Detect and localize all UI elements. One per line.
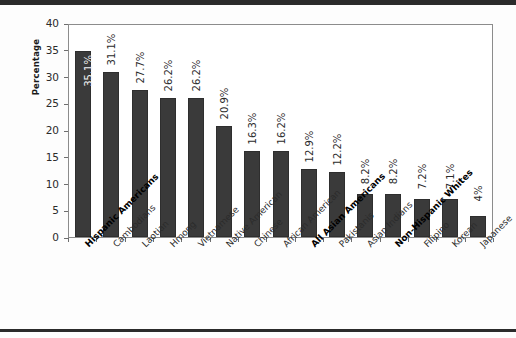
y-axis-tick-label: 20 xyxy=(46,124,59,136)
bar-value-label: 4% xyxy=(472,185,483,201)
x-axis-labels: Hispanic AmericansCambodiansLaotianHmong… xyxy=(69,242,492,332)
bar[interactable]: 26.2% xyxy=(160,98,176,237)
y-axis-tick-label: 40 xyxy=(46,17,59,29)
bar-value-label: 12.2% xyxy=(331,134,342,166)
y-axis-tick-label: 5 xyxy=(52,204,59,216)
bar[interactable]: 35.1% xyxy=(75,51,91,237)
y-axis-tick-label: 30 xyxy=(46,71,59,83)
bar-value-label: 27.7% xyxy=(134,52,145,84)
bar-value-label: 20.9% xyxy=(219,88,230,120)
bar-value-label: 12.9% xyxy=(303,130,314,162)
bar-value-label: 16.2% xyxy=(275,113,286,145)
bar-value-label: 8.2% xyxy=(388,158,399,183)
bar-value-label: 35.1% xyxy=(83,55,94,87)
y-axis-title: Percentage xyxy=(31,7,41,127)
y-axis-tick-label: 10 xyxy=(46,178,59,190)
bar-slot: 26.2% xyxy=(182,25,210,237)
bar-value-label: 7.2% xyxy=(416,164,427,189)
bar-value-label: 8.2% xyxy=(360,158,371,183)
bar[interactable]: 26.2% xyxy=(188,98,204,237)
chart-figure: Percentage 0510152025303540 35.1%31.1%27… xyxy=(0,0,516,338)
bar-slot: 35.1% xyxy=(69,25,97,237)
y-axis-tick-label: 35 xyxy=(46,44,59,56)
bar-value-label: 26.2% xyxy=(190,60,201,92)
y-axis-tick-label: 15 xyxy=(46,151,59,163)
page-rule-top xyxy=(0,0,516,5)
bar-value-label: 16.3% xyxy=(247,112,258,144)
y-axis-tick-label: 0 xyxy=(52,231,59,243)
bar-value-label: 31.1% xyxy=(106,34,117,66)
bar-slot: 26.2% xyxy=(154,25,182,237)
bar-slot: 4% xyxy=(464,25,492,237)
y-axis-tick-label: 25 xyxy=(46,97,59,109)
bar-value-label: 26.2% xyxy=(162,60,173,92)
